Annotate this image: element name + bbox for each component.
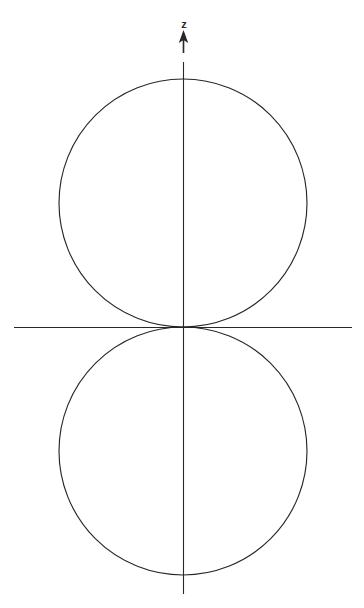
z-axis-label: z	[181, 18, 187, 30]
radiation-pattern-figure: z	[0, 0, 364, 608]
figure-background	[0, 0, 364, 608]
figure-canvas: z	[0, 0, 364, 608]
